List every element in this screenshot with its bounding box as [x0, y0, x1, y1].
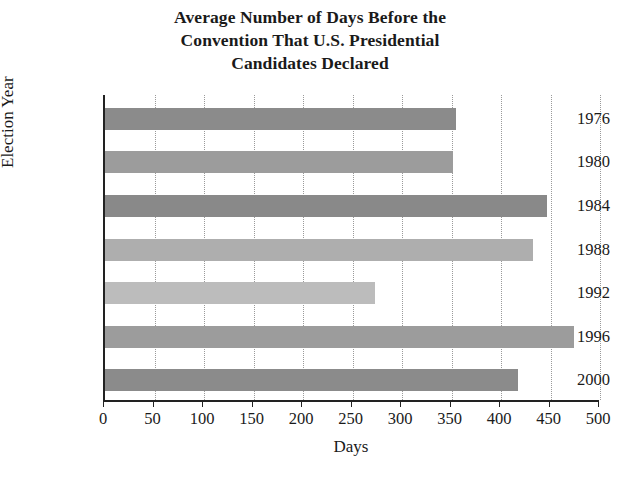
y-tick-label-1988: 1988: [527, 240, 619, 260]
x-tick: [153, 400, 154, 407]
y-tick-label-1992: 1992: [527, 283, 619, 303]
y-tick-label-1984: 1984: [527, 196, 619, 216]
chart-title-line-2: Convention That U.S. Presidential: [60, 29, 560, 52]
bar-1976: [105, 108, 456, 130]
x-tick: [400, 400, 401, 407]
bar-1988: [105, 239, 533, 261]
bar-1996: [105, 326, 574, 348]
chart-title-line-1: Average Number of Days Before the: [60, 6, 560, 29]
x-tick: [103, 400, 104, 407]
x-tick: [598, 400, 599, 407]
y-tick-label-1980: 1980: [527, 152, 619, 172]
chart-title: Average Number of Days Before the Conven…: [60, 6, 560, 75]
x-tick-label-500: 500: [568, 409, 619, 429]
bar-chart: Average Number of Days Before the Conven…: [0, 0, 619, 478]
x-tick: [499, 400, 500, 407]
bar-1992: [105, 282, 375, 304]
bar-2000: [105, 369, 518, 391]
x-tick: [252, 400, 253, 407]
x-tick: [351, 400, 352, 407]
plot-area: [103, 95, 598, 400]
bar-1984: [105, 195, 547, 217]
x-tick: [450, 400, 451, 407]
x-tick: [202, 400, 203, 407]
x-tick: [301, 400, 302, 407]
y-tick-label-2000: 2000: [527, 370, 619, 390]
y-axis-title: Election Year: [0, 76, 18, 168]
chart-title-line-3: Candidates Declared: [60, 52, 560, 75]
y-tick-label-1996: 1996: [527, 327, 619, 347]
y-tick-label-1976: 1976: [527, 109, 619, 129]
x-axis-title: Days: [103, 437, 599, 457]
x-tick: [549, 400, 550, 407]
bar-1980: [105, 151, 453, 173]
